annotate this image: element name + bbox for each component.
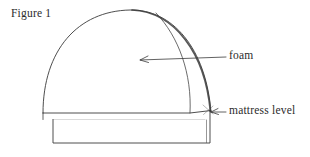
dome-inner-arc	[156, 13, 190, 113]
foam-arrowhead-icon	[140, 56, 149, 63]
base-box-outline	[53, 111, 210, 144]
dome-outer-arc	[43, 10, 211, 113]
corner-tick-marks	[203, 105, 213, 115]
callout-label-foam: foam	[229, 49, 253, 61]
callout-label-mattress-level: mattress level	[229, 104, 295, 116]
figure-container: Figure 1 foam	[0, 0, 310, 157]
technical-drawing	[0, 0, 310, 157]
mattress-level-line	[43, 111, 211, 114]
